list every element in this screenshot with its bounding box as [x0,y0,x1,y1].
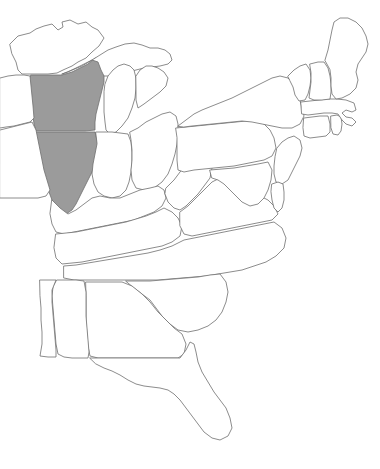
map-figure [0,0,380,469]
state-alabama[interactable] [52,280,89,358]
state-indiana[interactable] [92,132,132,198]
us-east-outline-map[interactable] [0,0,380,469]
state-new-hampshire[interactable] [309,62,331,100]
state-iowa[interactable] [0,75,34,128]
state-connecticut[interactable] [303,116,330,138]
